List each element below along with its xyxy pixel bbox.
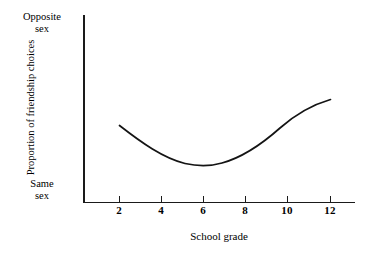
chart-figure: Opposite sex Same sex Proportion of frie… bbox=[0, 0, 365, 254]
friendship-choices-curve bbox=[120, 100, 331, 166]
plot-area bbox=[0, 0, 365, 254]
